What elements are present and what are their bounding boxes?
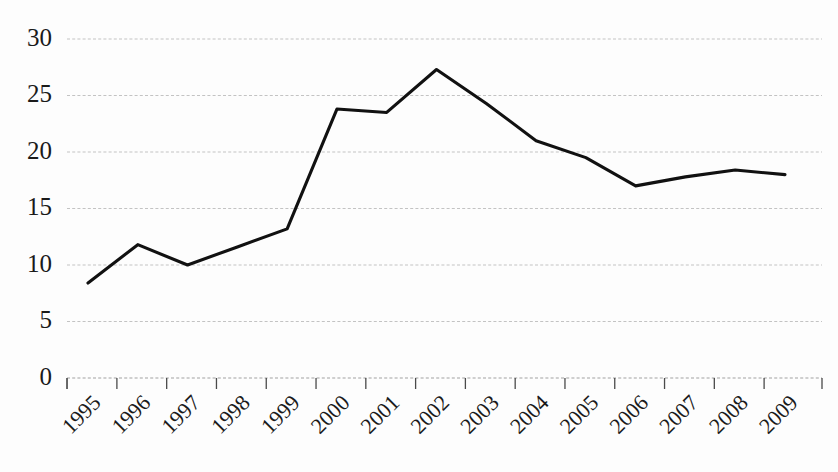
line-chart: 051015202530 199519961997199819992000200… [0,0,838,472]
y-tick-label-10: 10 [27,250,52,277]
y-tick-label-30: 30 [27,24,52,51]
y-tick-label-0: 0 [40,363,53,390]
y-tick-label-15: 15 [27,193,52,220]
chart-page: 051015202530 199519961997199819992000200… [0,0,838,472]
y-tick-label-20: 20 [27,137,52,164]
y-tick-label-25: 25 [27,80,52,107]
y-tick-label-5: 5 [40,306,53,333]
